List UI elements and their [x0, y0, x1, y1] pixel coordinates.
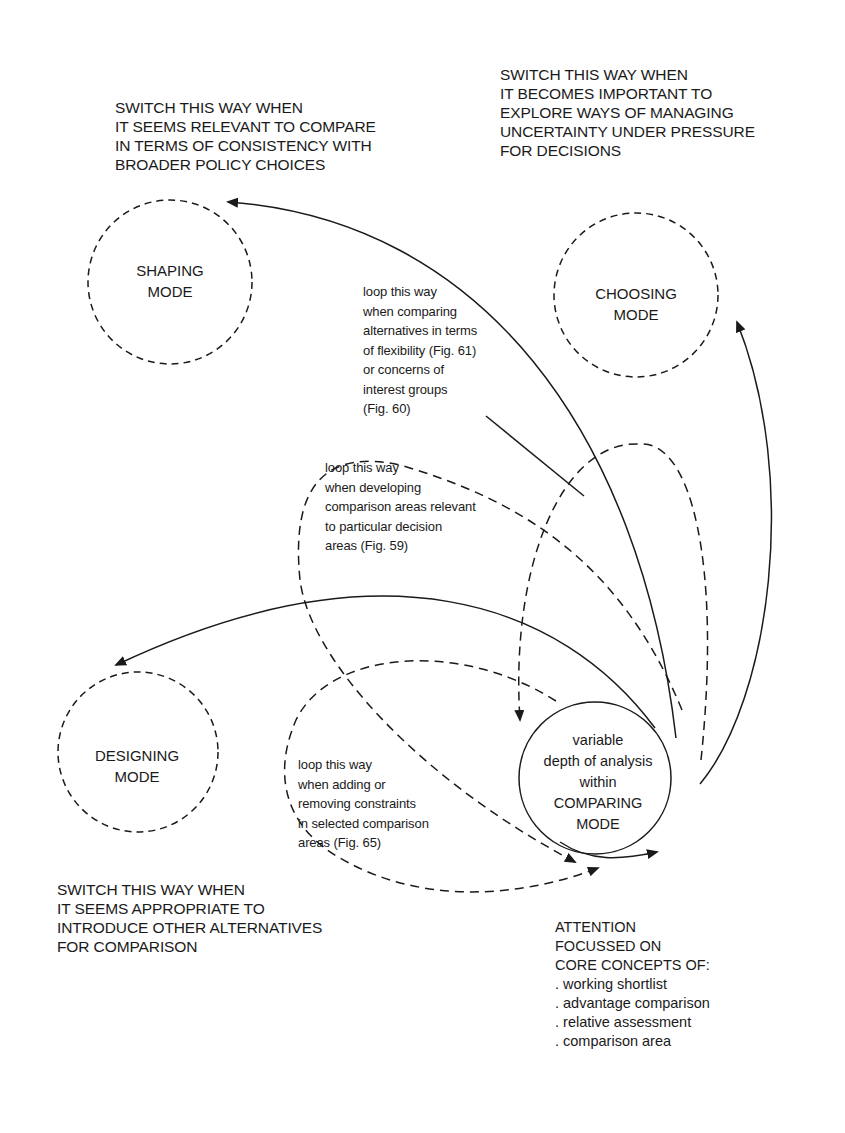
- leader-flexibility: [486, 416, 584, 496]
- switch-arrow-designing: [116, 596, 655, 728]
- core-concepts: ATTENTION FOCUSSED ON CORE CONCEPTS OF: …: [555, 918, 710, 1051]
- choosing-mode-label: CHOOSING MODE: [576, 283, 696, 325]
- core-concepts-heading: ATTENTION: [555, 918, 710, 937]
- core-concept-item: . working shortlist: [555, 975, 710, 994]
- switch-label-choosing: SWITCH THIS WAY WHEN IT BECOMES IMPORTAN…: [500, 65, 755, 160]
- core-concept-item: . advantage comparison: [555, 994, 710, 1013]
- switch-arrow-choosing: [700, 322, 771, 784]
- core-concept-item: . comparison area: [555, 1032, 710, 1051]
- shaping-mode-label: SHAPING MODE: [110, 260, 230, 302]
- loop-label-flexibility: loop this way when comparing alternative…: [363, 282, 477, 419]
- loop-label-constraints: loop this way when adding or removing co…: [298, 755, 429, 853]
- switch-label-shaping: SWITCH THIS WAY WHEN IT SEEMS RELEVANT T…: [115, 98, 376, 174]
- core-concept-item: . relative assessment: [555, 1013, 710, 1032]
- loop-inner-comparing: [560, 842, 657, 858]
- strategic-choice-modes-diagram: SWITCH THIS WAY WHEN IT SEEMS RELEVANT T…: [0, 0, 845, 1133]
- designing-mode-label: DESIGNING MODE: [72, 745, 202, 787]
- switch-label-designing: SWITCH THIS WAY WHEN IT SEEMS APPROPRIAT…: [57, 880, 322, 956]
- loop-flexibility: [519, 444, 708, 760]
- loop-label-comparison-areas: loop this way when developing comparison…: [325, 458, 476, 556]
- comparing-mode-label: variable depth of analysis within COMPAR…: [527, 730, 669, 835]
